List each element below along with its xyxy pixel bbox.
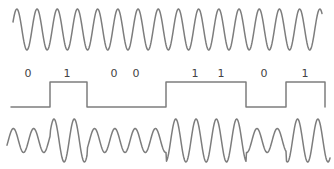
modulated-wave <box>7 119 330 162</box>
bit-label: 1 <box>218 67 225 80</box>
diagram-svg: 01001101 <box>0 0 334 169</box>
bit-label: 0 <box>111 67 118 80</box>
bit-label: 0 <box>25 67 32 80</box>
bit-label: 0 <box>133 67 140 80</box>
bit-label: 0 <box>261 67 268 80</box>
bit-label: 1 <box>192 67 199 80</box>
carrier-wave <box>13 9 322 50</box>
bit-label: 1 <box>64 67 71 80</box>
bit-labels: 01001101 <box>25 67 309 80</box>
ask-modulation-diagram: 01001101 <box>0 0 334 169</box>
bit-label: 1 <box>302 67 309 80</box>
binary-data-signal <box>11 82 325 107</box>
